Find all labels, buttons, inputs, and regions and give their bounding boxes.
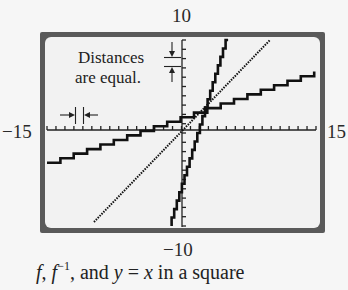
annotation-text-line2: are equal.	[75, 68, 141, 88]
caption-tail: in a square	[153, 261, 245, 283]
caption-sep: ,	[42, 261, 52, 283]
caption-y: y	[114, 261, 123, 283]
graph-plot	[0, 0, 348, 290]
horizontal-distance-marker	[60, 107, 98, 124]
caption-x: x	[144, 261, 153, 283]
figure-caption: f, f−1, and y = x in a square	[36, 259, 245, 284]
y-axis	[182, 40, 186, 227]
annotation-text-line1: Distances	[78, 48, 144, 68]
caption-exponent: −1	[57, 259, 70, 273]
caption-eq: =	[123, 261, 144, 283]
vertical-distance-marker	[164, 42, 181, 82]
caption-mid: , and	[70, 261, 114, 283]
line-f	[172, 40, 229, 226]
